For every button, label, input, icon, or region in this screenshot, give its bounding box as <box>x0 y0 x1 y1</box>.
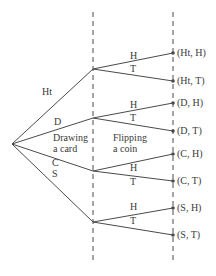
outcome-label: (Ht, H) <box>177 48 206 58</box>
leaf-dot <box>171 79 175 83</box>
stage-label-drawing: Drawing <box>53 133 88 143</box>
tree-diagram: Drawing a card Flipping a coin HtH(Ht, H… <box>0 0 216 276</box>
coin-branch-label: T <box>130 216 136 226</box>
outcome-label: (C, T) <box>177 176 201 186</box>
leaf-dot <box>171 51 175 55</box>
outcome-label: (C, H) <box>177 149 203 159</box>
leaf-dot <box>171 179 175 183</box>
stage-label-a-card: a card <box>53 144 77 154</box>
leaf-dot <box>171 206 175 210</box>
coin-branch-label: H <box>130 51 137 61</box>
leaf-dot <box>171 233 175 237</box>
stage-label-flipping: Flipping <box>113 133 147 143</box>
outcome-label: (D, H) <box>177 98 203 108</box>
card-branch-label: C <box>52 158 59 168</box>
card-branch-label: Ht <box>42 87 52 97</box>
card-branch-label: S <box>52 169 58 179</box>
coin-branch-label: H <box>130 202 137 212</box>
coin-branch-label: H <box>130 100 137 110</box>
coin-branch-label: T <box>130 113 136 123</box>
outcome-label: (Ht, T) <box>177 76 205 86</box>
stage-label-a-coin: a coin <box>113 144 137 154</box>
coin-branch-label: T <box>130 64 136 74</box>
coin-branch-label: T <box>130 177 136 187</box>
leaf-dot <box>171 101 175 105</box>
outcome-label: (D, T) <box>177 126 202 136</box>
outcome-label: (S, T) <box>177 230 200 240</box>
leaf-dot <box>171 152 175 156</box>
card-branch-line <box>12 144 93 222</box>
coin-branch-label: H <box>130 163 137 173</box>
leaf-dot <box>171 129 175 133</box>
outcome-label: (S, H) <box>177 203 201 213</box>
card-branch-label: D <box>54 117 61 127</box>
